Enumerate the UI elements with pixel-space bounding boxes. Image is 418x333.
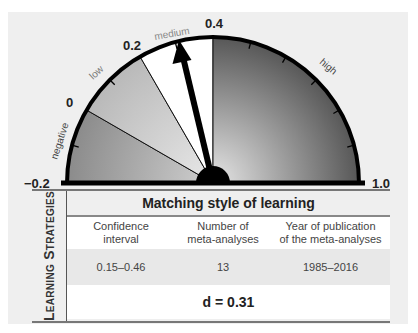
label-0-4: 0.4	[205, 16, 224, 31]
header-year-of-publication: Year of publication of the meta-analyses	[271, 220, 390, 246]
zone-high	[213, 37, 359, 183]
zone-label-high: high	[318, 56, 340, 77]
table-body: Matching style of learning Confidence in…	[67, 191, 390, 321]
value-number-of-meta-analyses: 13	[175, 261, 271, 274]
label-max: 1.0	[372, 176, 390, 190]
side-label: Learning Strategies	[41, 191, 57, 321]
effect-size: d = 0.31	[67, 285, 390, 319]
value-confidence-interval: 0.15–0.46	[67, 261, 175, 274]
side-label-cell: Learning Strategies	[32, 191, 67, 321]
label-zero: 0	[66, 95, 73, 110]
label-0-2: 0.2	[123, 38, 141, 53]
zone-label-negative: negative	[48, 121, 70, 161]
summary-table: Learning Strategies Matching style of le…	[32, 189, 390, 323]
table-title: Matching style of learning	[67, 191, 390, 217]
value-year-of-publication: 1985–2016	[271, 261, 390, 274]
zone-label-low: low	[87, 63, 106, 82]
header-number-of-meta-analyses: Number of meta-analyses	[175, 220, 271, 246]
label-min: −0.2	[24, 176, 50, 190]
table-row: 0.15–0.46 13 1985–2016	[67, 249, 390, 285]
header-confidence-interval: Confidence interval	[67, 220, 175, 246]
table-header-row: Confidence interval Number of meta-analy…	[67, 217, 390, 249]
barometer-gauge: −0.2 0 0.2 0.4 1.0 negative low medium h…	[0, 0, 418, 190]
